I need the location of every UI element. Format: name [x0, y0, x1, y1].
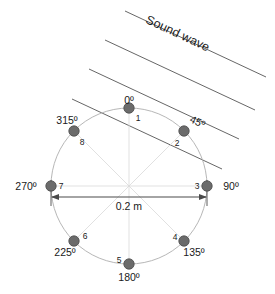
index-label-4: 4 — [173, 232, 178, 242]
sound-wave-label: Sound wave — [144, 12, 212, 54]
index-label-6: 6 — [83, 231, 88, 241]
marker-point-7[interactable] — [46, 181, 56, 191]
angle-label-225: 225º — [54, 246, 76, 258]
sound-wave-line-3 — [89, 69, 239, 139]
diameter-label: 0.2 m — [116, 200, 143, 212]
marker-point-3[interactable] — [202, 181, 212, 191]
angle-label-135: 135º — [183, 246, 205, 258]
sound-wave-array-diagram: Sound wave 0.2 m — [0, 0, 275, 294]
index-label-2: 2 — [175, 138, 180, 148]
angle-label-315: 315º — [56, 114, 78, 126]
angle-label-90: 90º — [223, 180, 239, 192]
index-label-5: 5 — [117, 255, 122, 265]
index-label-7: 7 — [59, 181, 64, 191]
angle-label-45: 45º — [188, 113, 207, 131]
index-label-3: 3 — [195, 181, 200, 191]
marker-point-2[interactable] — [179, 126, 189, 136]
marker-point-8[interactable] — [69, 126, 79, 136]
sound-wave-line-4 — [72, 99, 222, 169]
figure-canvas: Sound wave 0.2 m — [0, 0, 275, 294]
marker-point-5[interactable] — [124, 259, 134, 269]
index-label-8: 8 — [80, 137, 85, 147]
angle-label-180: 180º — [118, 271, 140, 283]
angle-label-0: 0º — [124, 94, 134, 106]
index-label-1: 1 — [136, 113, 141, 123]
marker-point-6[interactable] — [69, 236, 79, 246]
angle-label-270: 270º — [15, 180, 37, 192]
marker-point-4[interactable] — [179, 236, 189, 246]
